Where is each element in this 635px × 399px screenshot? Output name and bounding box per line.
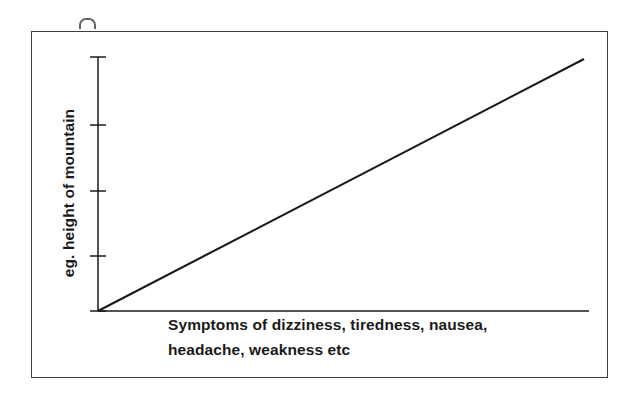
hole-punch-mark-icon xyxy=(79,18,96,29)
x-axis-label-line-2: headache, weakness etc xyxy=(168,337,588,362)
x-axis-label-line-1: Symptoms of dizziness, tiredness, nausea… xyxy=(168,312,588,337)
x-axis-label: Symptoms of dizziness, tiredness, nausea… xyxy=(168,312,588,362)
y-axis-label-text: eg. height of mountain xyxy=(60,108,78,276)
figure-container: eg. height of mountain Symptoms of dizzi… xyxy=(0,0,635,399)
data-series-line xyxy=(98,59,584,311)
y-axis-label: eg. height of mountain xyxy=(57,75,81,310)
